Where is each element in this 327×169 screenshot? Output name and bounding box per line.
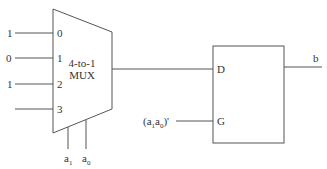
latch-block (213, 46, 284, 143)
latch-d-label: D (217, 63, 225, 75)
input-1-value: 0 (6, 52, 12, 64)
mux-label-line1: 4-to-1 (69, 57, 96, 69)
input-2-value: 1 (7, 78, 13, 90)
input-2-index: 2 (57, 78, 63, 90)
latch-g-label: G (217, 115, 225, 127)
input-0-index: 0 (57, 27, 63, 39)
input-0-value: 1 (7, 27, 13, 39)
input-3-index: 3 (57, 103, 63, 115)
circuit-diagram: 4-to-1 MUX 1 0 0 1 1 2 3 a1 a0 D G (a1a0… (0, 0, 327, 169)
select-a0: a0 (82, 120, 91, 167)
select-a1: a1 (64, 127, 73, 167)
a0-sub: 0 (87, 159, 91, 167)
svg-text:a0: a0 (82, 152, 91, 167)
a1-sub: 1 (69, 159, 73, 167)
output-b-label: b (313, 52, 319, 64)
mux-label-line2: MUX (69, 69, 95, 81)
g-input-label: (a1a0)' (143, 115, 169, 130)
input-1-index: 1 (57, 52, 63, 64)
svg-text:a1: a1 (64, 152, 73, 167)
